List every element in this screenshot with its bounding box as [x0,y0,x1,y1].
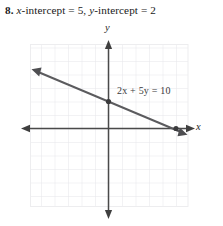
problem-number: 8. [5,4,14,16]
x-intercept-point [173,126,178,131]
problem-statement: 8. x-intercept = 5, y-intercept = 2 [5,3,156,17]
y-intercept-text: -intercept = 2 [94,4,156,16]
graph-figure: y x 2x + 5y = 10 [0,18,223,226]
x-axis-label: x [196,121,201,132]
y-intercept-point [106,99,111,104]
x-intercept-text: -intercept = 5, [22,4,87,16]
equation-annotation: 2x + 5y = 10 [117,85,171,96]
y-axis-label: y [105,22,110,33]
coordinate-plot [0,18,223,226]
